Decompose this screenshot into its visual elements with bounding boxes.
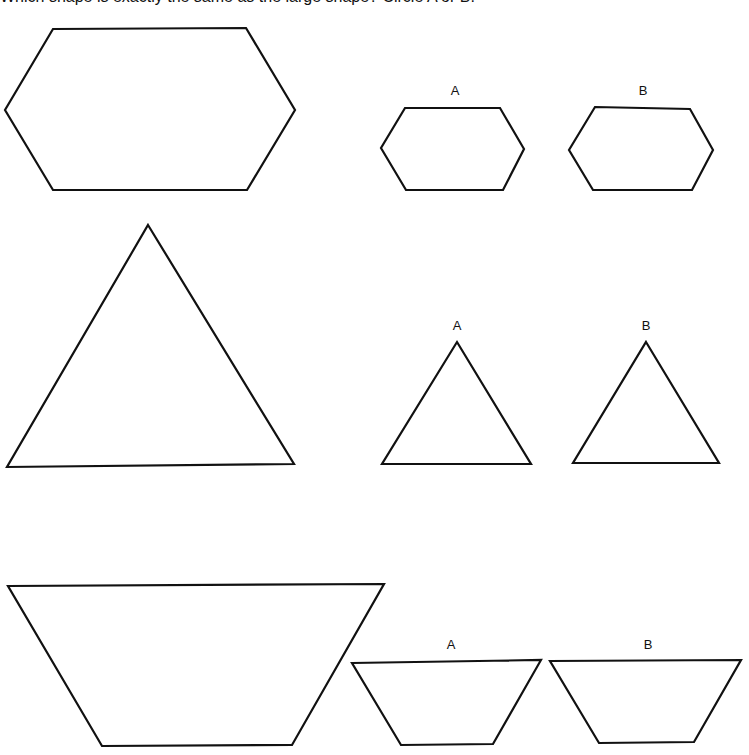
reference-triangle xyxy=(7,225,294,467)
shape-matching-worksheet: A B A B A B xyxy=(0,0,749,755)
option-label-a: A xyxy=(453,318,462,333)
hexagon-option-b[interactable] xyxy=(569,107,713,190)
option-label-a: A xyxy=(447,637,456,652)
option-label-b: B xyxy=(644,637,653,652)
triangle-option-b[interactable] xyxy=(573,342,719,463)
trapezoid-option-a[interactable] xyxy=(352,660,541,745)
option-label-b: B xyxy=(642,318,651,333)
trapezoid-option-b[interactable] xyxy=(550,660,741,743)
hexagon-option-a[interactable] xyxy=(381,108,524,190)
triangle-option-a[interactable] xyxy=(382,342,531,464)
option-label-a: A xyxy=(451,83,460,98)
reference-hexagon xyxy=(5,28,295,190)
reference-trapezoid xyxy=(8,584,384,746)
option-label-b: B xyxy=(639,83,648,98)
